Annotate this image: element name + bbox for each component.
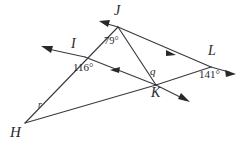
angle-label-i-116: 116° <box>73 62 94 73</box>
ray-h-through-k-downright <box>25 85 190 123</box>
arrowhead-past-l <box>225 70 236 77</box>
vertex-label-k: K <box>151 86 160 100</box>
angle-label-l-141: 141° <box>199 69 220 80</box>
angle-label-j-79: 79° <box>104 36 119 47</box>
angle-label-k-q: q <box>150 66 156 77</box>
segment-j-l <box>118 27 211 67</box>
vertex-label-l: L <box>208 44 216 58</box>
angle-label-h-r: r <box>38 101 42 111</box>
ray-extension-past-i <box>48 49 85 57</box>
segment-k-i <box>85 57 156 85</box>
geometry-diagram: J I L K H 79° 116° q 141° r <box>0 0 250 149</box>
vertex-label-j: J <box>114 4 120 18</box>
arrowhead-past-k <box>178 93 190 102</box>
arrowhead-past-j <box>99 20 110 27</box>
arrowhead-past-i <box>41 46 53 53</box>
ray-k-through-i-upleft <box>41 46 156 85</box>
vertex-label-i: I <box>71 37 76 51</box>
vertex-label-h: H <box>10 125 21 140</box>
segment-h-k <box>25 85 156 123</box>
